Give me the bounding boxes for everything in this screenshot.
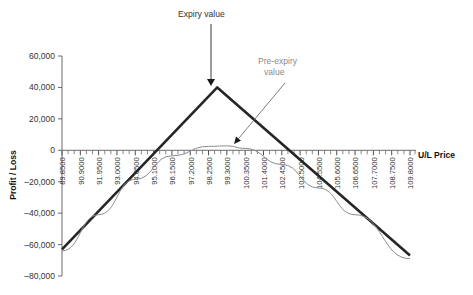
x-axis-tick-label: 90.9000 [77,157,86,184]
x-axis-title: U/L Price [418,150,455,160]
y-axis-tick-label: 20,000 [29,114,55,124]
x-axis-tick-label: 97.2000 [187,157,196,184]
annotation-label-pre-expiry-line2: value [264,67,285,77]
x-axis-tick-label: 107.7000 [370,157,379,189]
x-axis-tick-label: 93.0000 [113,157,122,184]
x-axis-tick-label: 106.6500 [351,157,360,189]
x-axis-tick-label: 109.8000 [406,157,415,189]
x-axis-tick-label: 96.1500 [168,157,177,184]
annotation-arrowhead-pre-expiry [234,137,241,144]
y-axis-tick-group: 60,00040,00020,0000–20,000–40,000–60,000… [24,51,62,281]
annotation-group: Expiry valuePre-expiryvalue [178,9,298,144]
annotation-label-expiry: Expiry value [178,9,225,19]
annotation-label-pre-expiry: Pre-expiry [258,56,298,66]
x-axis-tick-group [62,150,415,155]
y-axis-tick-label: 0 [50,145,55,155]
x-axis-tick-label: 105.6000 [333,157,342,189]
x-axis-tick-label: 89.8500 [58,157,67,184]
y-axis-tick-label: 60,000 [29,51,55,61]
x-axis-tick-label: 98.2500 [205,157,214,184]
x-axis-tick-label: 102.4500 [278,157,287,189]
x-axis-tick-label: 108.7500 [388,157,397,189]
x-axis-tick-label: 100.3500 [242,157,251,189]
chart-canvas: 60,00040,00020,0000–20,000–40,000–60,000… [0,0,473,295]
x-axis-tick-label: 91.9500 [95,157,104,184]
x-axis-tick-label: 101.4000 [260,157,269,189]
y-axis-tick-label: 40,000 [29,82,55,92]
y-axis-tick-label: –20,000 [24,177,55,187]
y-axis-tick-label: –40,000 [24,208,55,218]
y-axis-title: Profit / Loss [8,150,18,200]
x-axis-tick-label: 99.3000 [223,157,232,184]
payoff-chart: 60,00040,00020,0000–20,000–40,000–60,000… [0,0,473,295]
y-axis-tick-label: –60,000 [24,240,55,250]
y-axis-tick-label: –80,000 [24,271,55,281]
x-axis-tick-labels: 89.850090.900091.950093.000094.050095.10… [58,157,415,189]
annotation-arrowhead-expiry [207,79,215,86]
